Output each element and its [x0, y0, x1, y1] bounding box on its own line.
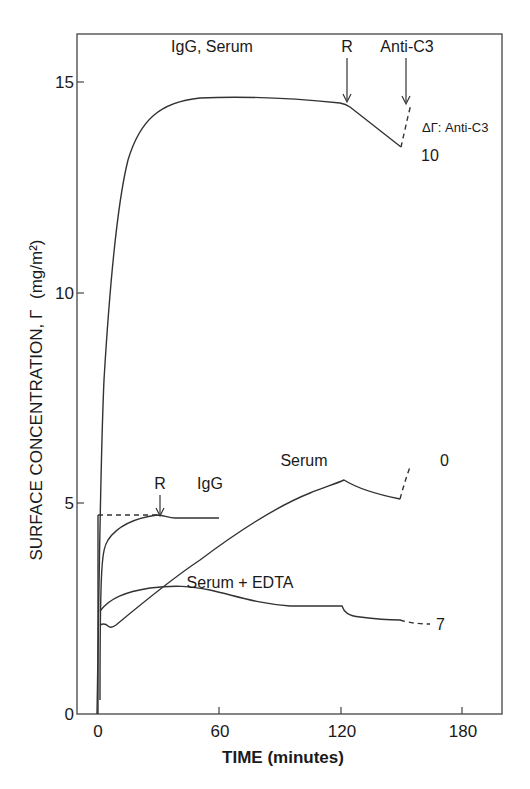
y-axis-title: SURFACE CONCENTRATION, Γ (mg/m²): [27, 239, 46, 560]
series-serum: [100, 480, 400, 627]
label-igg: IgG: [197, 475, 223, 492]
label-r-top: R: [341, 38, 353, 55]
series-serum-anticode3: [400, 467, 410, 499]
arrow-anti-c3: [402, 58, 410, 104]
y-axis-ticks: [77, 82, 84, 503]
x-tick-0: 0: [93, 722, 102, 741]
series-serum-edta: [100, 586, 400, 620]
x-tick-120: 120: [328, 722, 356, 741]
y-tick-15: 15: [55, 73, 74, 92]
label-anti-c3: Anti-C3: [380, 38, 433, 55]
label-delta-7: 7: [436, 616, 445, 633]
x-axis-ticks: [219, 707, 462, 714]
series-igg: [100, 515, 219, 700]
chart-svg: 0 5 10 15 0 60 120 180 TIME (minutes) SU…: [0, 0, 530, 789]
label-delta-anti-c3: ΔΓ: Anti-C3: [422, 120, 488, 135]
y-tick-10: 10: [55, 284, 74, 303]
label-r-low: R: [154, 475, 166, 492]
label-delta-0: 0: [440, 452, 449, 469]
series-igg-serum-anticode3: [401, 104, 411, 147]
label-igg-serum: IgG, Serum: [171, 38, 253, 55]
svg-text:SURFACE CONCENTRATION, Γ: SURFACE CONCENTRATION, Γ (mg/m²): [27, 239, 46, 560]
y-axis-title-units: (mg/m²): [27, 239, 46, 298]
series-igg-serum: [97, 97, 401, 714]
arrow-r-low: [156, 495, 164, 516]
label-delta-10: 10: [421, 147, 439, 164]
x-tick-60: 60: [211, 722, 230, 741]
label-serum: Serum: [280, 452, 327, 469]
y-tick-5: 5: [65, 494, 74, 513]
x-axis-title: TIME (minutes): [222, 748, 344, 767]
arrow-r-top: [343, 58, 351, 102]
plot-frame: [77, 34, 502, 714]
y-tick-0: 0: [65, 705, 74, 724]
y-axis-title-main: SURFACE CONCENTRATION, Γ: [27, 310, 46, 561]
label-serum-edta: Serum + EDTA: [187, 574, 294, 591]
series-serum-edta-anticode3: [400, 620, 430, 624]
x-tick-180: 180: [449, 722, 477, 741]
